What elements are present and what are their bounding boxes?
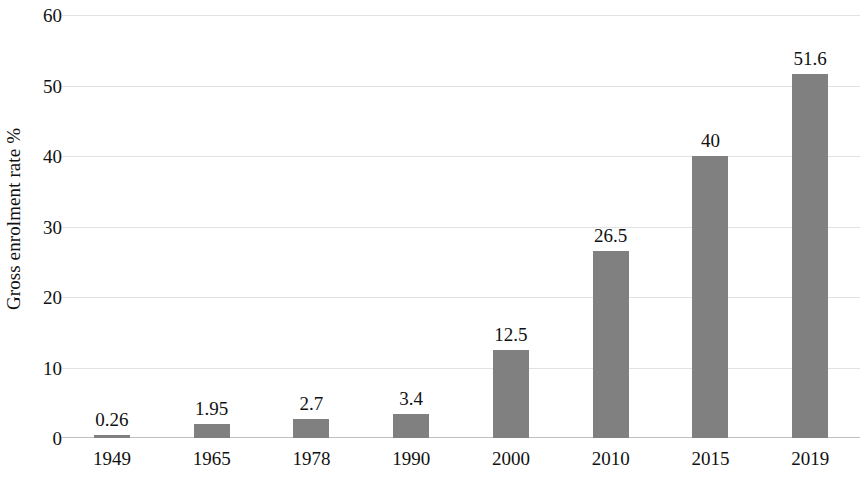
bar-1978[interactable]: 2.7 [293, 419, 329, 438]
y-axis-tick-labels: 60 50 40 30 20 10 0 [24, 0, 62, 453]
bar-chart: Gross enrolment rate % 60 50 40 30 20 10… [0, 0, 864, 477]
bar-slot-2015: 40 [661, 15, 761, 438]
bar-slot-1990: 3.4 [361, 15, 461, 438]
bar-value-2019: 51.6 [794, 49, 827, 68]
x-tick-label-2010: 2010 [561, 449, 661, 477]
bar-2019[interactable]: 51.6 [792, 74, 828, 438]
y-tick-label-60: 60 [24, 6, 62, 25]
bar-value-1978: 2.7 [300, 394, 324, 413]
x-tick-label-2019: 2019 [760, 449, 860, 477]
bar-2000[interactable]: 12.5 [493, 350, 529, 438]
bar-1965[interactable]: 1.95 [194, 424, 230, 438]
bar-value-1949: 0.26 [95, 410, 128, 429]
y-tick-label-20: 20 [24, 288, 62, 307]
bar-slot-2000: 12.5 [461, 15, 561, 438]
plot-area: 0.26 1.95 2.7 3.4 12.5 [62, 15, 860, 438]
y-tick-label-30: 30 [24, 217, 62, 236]
bar-slot-1965: 1.95 [162, 15, 262, 438]
x-tick-label-1949: 1949 [62, 449, 162, 477]
y-tick-label-10: 10 [24, 358, 62, 377]
bar-value-2015: 40 [701, 131, 720, 150]
bar-slot-1949: 0.26 [62, 15, 162, 438]
bar-1949[interactable]: 0.26 [94, 435, 130, 438]
y-axis-title-text: Gross enrolment rate % [3, 128, 25, 310]
bar-slot-2019: 51.6 [760, 15, 860, 438]
x-tick-label-1965: 1965 [162, 449, 262, 477]
x-tick-label-2015: 2015 [661, 449, 761, 477]
bar-value-1965: 1.95 [195, 399, 228, 418]
x-tick-label-2000: 2000 [461, 449, 561, 477]
y-tick-label-40: 40 [24, 147, 62, 166]
y-tick-label-0: 0 [24, 429, 62, 448]
bars-layer: 0.26 1.95 2.7 3.4 12.5 [62, 15, 860, 438]
bar-value-1990: 3.4 [399, 389, 423, 408]
bar-2010[interactable]: 26.5 [593, 251, 629, 438]
x-tick-label-1990: 1990 [361, 449, 461, 477]
x-tick-label-1978: 1978 [262, 449, 362, 477]
bar-1990[interactable]: 3.4 [393, 414, 429, 438]
bar-2015[interactable]: 40 [692, 156, 728, 438]
bar-value-2010: 26.5 [594, 226, 627, 245]
x-axis-tick-labels: 1949 1965 1978 1990 2000 2010 2015 2019 [62, 449, 860, 477]
y-tick-label-50: 50 [24, 76, 62, 95]
bar-slot-1978: 2.7 [262, 15, 362, 438]
bar-slot-2010: 26.5 [561, 15, 661, 438]
bar-value-2000: 12.5 [494, 325, 527, 344]
